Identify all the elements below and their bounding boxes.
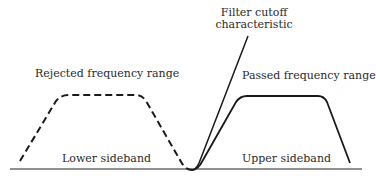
passed-range-label: Passed frequency range <box>242 70 376 82</box>
filter-cutoff-label: Filter cutoff characteristic <box>214 7 294 31</box>
lower-sideband-label: Lower sideband <box>62 153 151 165</box>
upper-sideband-label: Upper sideband <box>242 153 331 165</box>
filter-cutoff-line <box>192 36 248 170</box>
rejected-range-label: Rejected frequency range <box>35 68 179 80</box>
filter-cutoff-label-line2: characteristic <box>214 19 294 31</box>
